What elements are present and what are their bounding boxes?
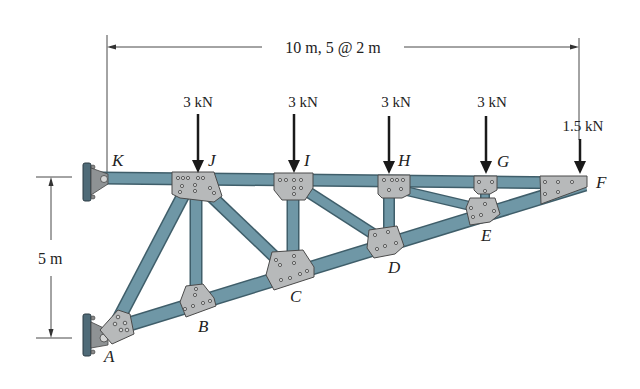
- gusset-plate-i: [274, 173, 313, 200]
- joint-label-c: C: [290, 287, 302, 306]
- joint-label-h: H: [397, 151, 412, 170]
- load-arrow-f: [574, 139, 586, 174]
- gusset-plate-h: [378, 175, 410, 198]
- load-label-g: 3 kN: [477, 94, 507, 110]
- gusset-plate-d: [367, 226, 404, 258]
- load-label-j: 3 kN: [183, 94, 213, 110]
- gusset-plate-b: [180, 284, 216, 317]
- vertical-dimension-label: 5 m: [38, 250, 63, 267]
- joint-label-j: J: [208, 151, 217, 170]
- joint-label-i: I: [303, 151, 311, 170]
- gusset-plate-c: [266, 250, 314, 290]
- joint-label-d: D: [387, 258, 401, 277]
- horizontal-dimension-label: 10 m, 5 @ 2 m: [285, 39, 381, 57]
- load-arrow-j: [192, 114, 204, 173]
- gusset-plate-g: [474, 176, 497, 194]
- gusset-plate-f: [540, 176, 587, 204]
- joint-label-f: F: [595, 173, 607, 192]
- gusset-plate-e: [466, 198, 500, 225]
- load-label-i: 3 kN: [288, 94, 318, 110]
- joint-label-b: B: [198, 317, 209, 336]
- joint-label-k: K: [111, 151, 125, 170]
- truss-members: [100, 178, 585, 330]
- load-arrow-g: [480, 116, 492, 174]
- load-label-h: 3 kN: [381, 94, 411, 110]
- joint-label-e: E: [480, 226, 492, 245]
- truss-diagram: 10 m, 5 @ 2 m 5 m: [0, 0, 640, 389]
- load-arrow-h: [383, 116, 395, 174]
- support-k: [83, 163, 108, 201]
- gusset-plate-j: [172, 172, 222, 202]
- load-arrow-i: [288, 114, 300, 173]
- joint-label-g: G: [497, 152, 509, 171]
- joint-label-a: A: [103, 347, 115, 366]
- load-label-f: 1.5 kN: [563, 118, 604, 134]
